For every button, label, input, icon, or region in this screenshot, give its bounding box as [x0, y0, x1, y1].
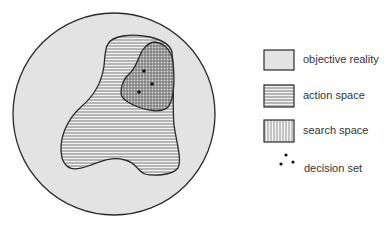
legend-label-action-space: action space [303, 89, 365, 101]
legend: objective reality action space search sp… [0, 0, 389, 225]
legend-label-decision-set: decision set [304, 162, 362, 174]
legend-label-objective-reality: objective reality [303, 53, 379, 65]
legend-label-search-space: search space [303, 124, 368, 136]
